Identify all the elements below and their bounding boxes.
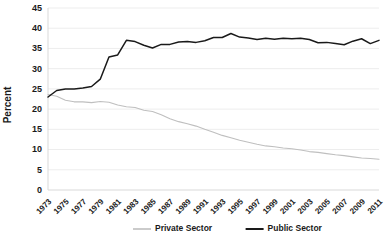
- x-tick-label: 1979: [87, 197, 106, 216]
- x-tick-label: 1991: [191, 197, 210, 216]
- x-tick-label: 1993: [209, 197, 228, 216]
- y-tick-label: 45: [32, 3, 42, 13]
- x-tick-label: 2003: [296, 197, 315, 216]
- x-tick-label: 1983: [122, 197, 141, 216]
- chart-container: 051015202530354045 197319751977197919811…: [0, 0, 385, 235]
- x-tick-label: 1989: [174, 197, 193, 216]
- x-tick-label: 1973: [34, 197, 53, 216]
- y-axis-ticks: 051015202530354045: [32, 3, 42, 195]
- legend-label-private-sector[interactable]: Private Sector: [155, 223, 213, 233]
- y-tick-label: 20: [32, 104, 42, 114]
- chart-legend: Private SectorPublic Sector: [133, 223, 323, 233]
- y-tick-label: 25: [32, 84, 42, 94]
- x-tick-label: 2009: [348, 197, 367, 216]
- y-tick-label: 0: [37, 185, 42, 195]
- x-tick-label: 2001: [278, 197, 297, 216]
- x-tick-label: 2007: [331, 197, 350, 216]
- x-tick-label: 1987: [156, 197, 175, 216]
- y-axis-title: Percent: [2, 86, 13, 123]
- line-chart: 051015202530354045 197319751977197919811…: [0, 0, 385, 235]
- y-tick-label: 30: [32, 64, 42, 74]
- x-tick-label: 2005: [313, 197, 332, 216]
- legend-label-public-sector[interactable]: Public Sector: [268, 223, 323, 233]
- x-tick-label: 1995: [226, 197, 245, 216]
- gridlines: [48, 8, 379, 190]
- x-tick-label: 1997: [244, 197, 263, 216]
- y-tick-label: 35: [32, 43, 42, 53]
- series-lines: [48, 33, 379, 159]
- y-tick-label: 10: [32, 144, 42, 154]
- y-tick-label: 5: [37, 165, 42, 175]
- series-line-public-sector: [48, 33, 379, 97]
- x-axis-ticks: 1973197519771979198119831985198719891991…: [34, 197, 384, 216]
- y-tick-label: 15: [32, 124, 42, 134]
- y-tick-label: 40: [32, 23, 42, 33]
- x-tick-label: 1981: [104, 197, 123, 216]
- x-tick-label: 1977: [69, 197, 88, 216]
- x-tick-label: 1985: [139, 197, 158, 216]
- x-tick-label: 1999: [261, 197, 280, 216]
- x-tick-label: 1975: [52, 197, 71, 216]
- x-tick-label: 2011: [366, 197, 385, 216]
